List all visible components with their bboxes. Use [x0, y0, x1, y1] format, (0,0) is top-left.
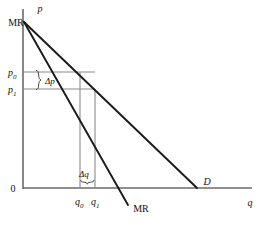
marginal-revenue-curve — [24, 22, 128, 205]
delta-p-brace — [36, 71, 41, 90]
delta-q-brace — [81, 180, 95, 184]
quantity-label-q0: q0 — [75, 196, 84, 210]
quantity-axis-label: q — [248, 197, 253, 208]
quantity-label-q1: q1 — [91, 196, 100, 210]
mr-curve-label-bottom: MR — [133, 203, 149, 214]
economics-diagram: p q 0 MR MR D p0 p1 q0 q1 Δp Δq — [0, 0, 262, 225]
mr-curve-label-top: MR — [8, 17, 24, 28]
price-label-p0: p0 — [7, 67, 17, 81]
origin-label: 0 — [11, 183, 16, 194]
price-label-p1: p1 — [7, 84, 17, 98]
delta-q-label: Δq — [78, 169, 89, 179]
delta-p-label: Δp — [44, 76, 55, 86]
price-axis-label: p — [37, 3, 43, 14]
demand-curve — [24, 22, 197, 188]
demand-curve-label: D — [202, 176, 211, 187]
